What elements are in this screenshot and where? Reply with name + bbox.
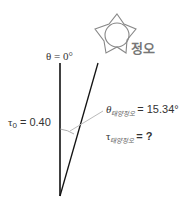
tau0-label: τ0 = 0.40 xyxy=(8,116,51,130)
theta-leader-line xyxy=(70,111,103,131)
theta-subscript: 태양정오 xyxy=(111,110,134,117)
sun-ray-line xyxy=(60,63,98,196)
tau-unknown-value: = ? xyxy=(133,130,152,142)
tau0-value: = 0.40 xyxy=(17,116,51,128)
theta-noon-label: θ태양정오 = 15.34° xyxy=(106,103,179,118)
theta-value: = 15.34° xyxy=(134,103,178,115)
zenith-angle-text: θ = 0° xyxy=(46,50,73,62)
sun-icon xyxy=(95,14,136,53)
sun-label: 정오 xyxy=(131,38,155,57)
sun-label-text: 정오 xyxy=(131,41,155,56)
tau-subscript: 태양정오 xyxy=(110,137,133,144)
tau-noon-label: τ태양정오 = ? xyxy=(106,130,153,145)
zenith-angle-label: θ = 0° xyxy=(46,50,73,62)
